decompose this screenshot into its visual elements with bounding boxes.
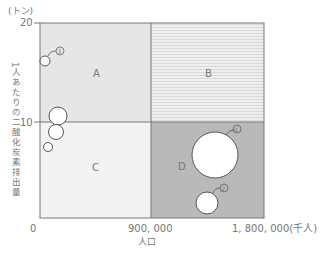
x-axis-title: 人口 (138, 237, 156, 247)
quadrant-label-c: C (92, 162, 99, 173)
y-unit: (トン) (8, 6, 33, 16)
bubble-6 (44, 143, 53, 152)
quadrant-label-b: B (205, 68, 212, 79)
bubble-2 (196, 192, 218, 214)
y-tick-label-0: 0 (30, 223, 36, 234)
x-tick-label-900000: 900, 000 (128, 223, 173, 234)
bubble-3-label: 3 (58, 48, 62, 55)
bubble-4 (49, 107, 67, 125)
bubble-1 (192, 132, 238, 178)
quadrant-label-a: A (93, 68, 100, 79)
x-tick-label-1800000: 1, 800, 000(千人) (232, 223, 317, 234)
bubble-3 (40, 56, 50, 66)
y-tick-label-10: 10 (20, 117, 33, 128)
y-axis-title: 1人あたりの二酸化炭素排出量 (10, 62, 20, 198)
bubble-5 (49, 125, 64, 140)
bubble-chart: (トン) 20 10 0 1人あたりの二酸化炭素排出量 900, 000 1, … (0, 0, 329, 256)
quadrant-label-d: D (178, 161, 186, 172)
bubble-1-label: 1 (235, 126, 239, 133)
bubble-2-label: 2 (222, 185, 226, 192)
y-tick-label-20: 20 (20, 17, 33, 28)
